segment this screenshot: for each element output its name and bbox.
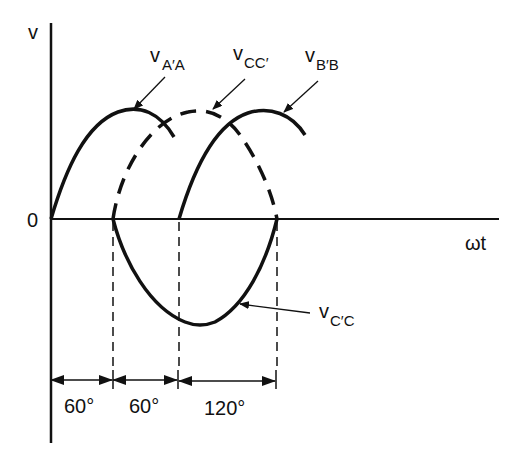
y-axis-label: v (28, 21, 38, 43)
label-vCpC: v C′C (319, 300, 355, 329)
three-phase-voltage-diagram: v 0 ωt v A′A v CC′ v B′B v C′C (0, 0, 516, 465)
svg-text:v: v (319, 300, 329, 322)
curve-vCC (113, 111, 277, 219)
interval-label-2: 60° (129, 395, 159, 417)
svg-text:B′B: B′B (316, 56, 339, 73)
guide-lines (113, 222, 277, 372)
svg-text:A′A: A′A (162, 56, 185, 73)
curve-vCpC (113, 219, 277, 325)
svg-text:CC′: CC′ (244, 54, 269, 71)
interval-label-3: 120° (204, 397, 245, 419)
label-arrows (134, 77, 318, 313)
label-vCC: v CC′ (233, 42, 269, 71)
svg-text:v: v (305, 44, 315, 66)
label-vBB: v B′B (305, 44, 339, 73)
svg-text:C′C: C′C (330, 312, 355, 329)
origin-label: 0 (27, 209, 38, 231)
interval-label-1: 60° (64, 395, 94, 417)
curve-vBB (179, 111, 305, 219)
dimension-lines (51, 370, 276, 389)
svg-text:v: v (150, 44, 160, 66)
label-vAA: v A′A (150, 44, 185, 73)
x-axis-label: ωt (465, 232, 487, 254)
svg-text:v: v (233, 42, 243, 64)
curve-vAA (51, 109, 174, 219)
